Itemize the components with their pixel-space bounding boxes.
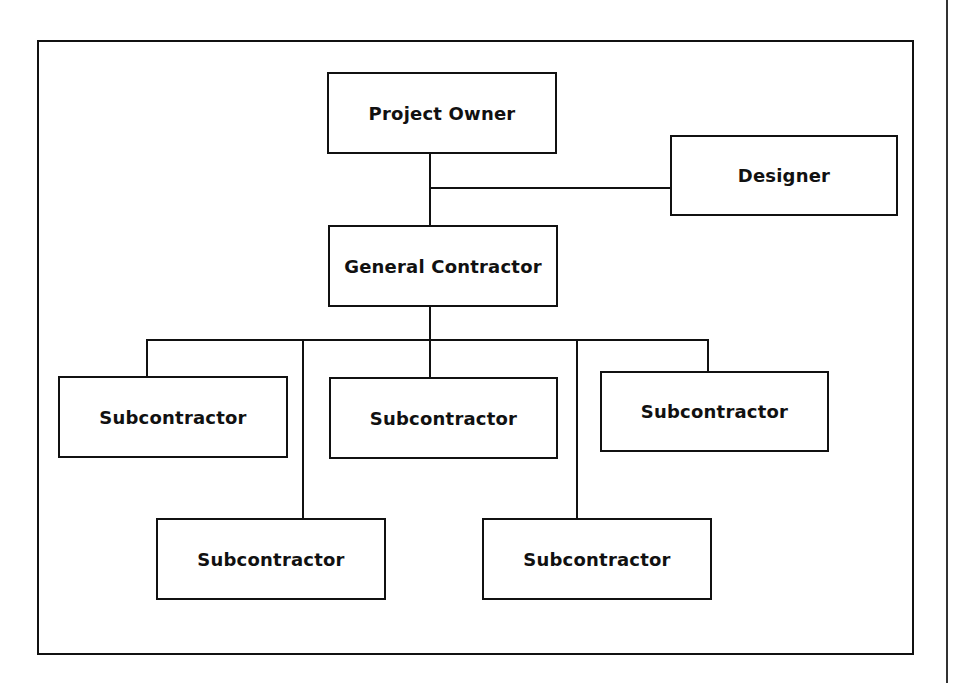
page-edge-rule [946,0,948,683]
connector-sub5 [576,339,578,519]
node-general-contractor: General Contractor [328,225,558,307]
connector-designer [429,187,672,189]
connector-sub2 [429,339,431,378]
node-label: Subcontractor [99,407,246,428]
connector-bus [146,339,709,341]
node-label: Designer [738,165,830,186]
node-subcontractor-5: Subcontractor [482,518,712,600]
node-label: Subcontractor [523,549,670,570]
node-label: Subcontractor [641,401,788,422]
node-label: Subcontractor [197,549,344,570]
connector-gc-bus [429,305,431,341]
node-label: Subcontractor [370,408,517,429]
node-subcontractor-1: Subcontractor [58,376,288,458]
connector-sub3 [707,339,709,372]
connector-owner-gc [429,152,431,226]
connector-sub4 [302,339,304,519]
node-designer: Designer [670,135,898,216]
node-project-owner: Project Owner [327,72,557,154]
node-subcontractor-3: Subcontractor [600,371,829,452]
node-subcontractor-4: Subcontractor [156,518,386,600]
node-label: General Contractor [344,256,542,277]
node-subcontractor-2: Subcontractor [329,377,558,459]
node-label: Project Owner [369,103,516,124]
connector-sub1 [146,339,148,377]
